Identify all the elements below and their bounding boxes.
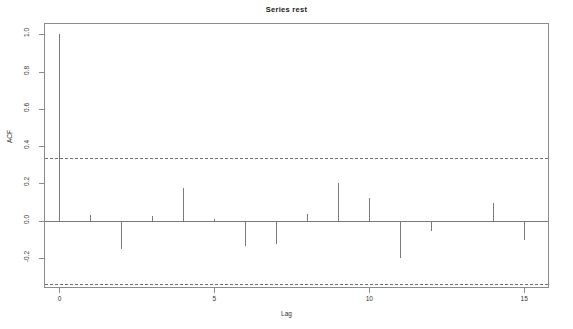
y-tick-mark <box>39 109 44 110</box>
x-tick-label: 5 <box>204 295 224 302</box>
acf-spike <box>524 221 525 241</box>
x-tick-label: 15 <box>514 295 534 302</box>
acf-spike <box>214 219 215 221</box>
x-tick-mark <box>214 288 215 293</box>
plot-frame <box>44 23 549 288</box>
x-tick-label: 10 <box>359 295 379 302</box>
acf-spike <box>152 216 153 221</box>
x-tick-mark <box>369 288 370 293</box>
acf-spike <box>59 34 60 221</box>
acf-spike <box>431 221 432 231</box>
y-tick-label: 0.0 <box>23 209 30 229</box>
acf-plot: Series rest ACF Lag 1.00.80.60.40.20.0-0… <box>0 0 573 329</box>
x-tick-mark <box>59 288 60 293</box>
acf-spike <box>245 221 246 246</box>
y-tick-mark <box>39 146 44 147</box>
acf-spike <box>183 188 184 221</box>
page-title: Series rest <box>0 5 573 14</box>
acf-spike <box>400 221 401 258</box>
acf-spike <box>307 214 308 221</box>
acf-spike <box>90 215 91 221</box>
y-tick-label: 0.2 <box>23 172 30 192</box>
y-tick-mark <box>39 34 44 35</box>
y-tick-mark <box>39 221 44 222</box>
acf-spike <box>276 221 277 244</box>
acf-spike <box>121 221 122 249</box>
y-tick-label: 0.4 <box>23 135 30 155</box>
x-axis-label: Lag <box>0 310 573 317</box>
y-tick-mark <box>39 183 44 184</box>
confidence-band-upper <box>45 158 548 159</box>
y-tick-mark <box>39 72 44 73</box>
y-tick-label: 0.8 <box>23 60 30 80</box>
acf-spike <box>369 198 370 220</box>
acf-spike <box>338 183 339 220</box>
y-tick-label: 1.0 <box>23 23 30 43</box>
y-axis-label: ACF <box>6 130 13 143</box>
x-tick-label: 0 <box>49 295 69 302</box>
x-tick-mark <box>524 288 525 293</box>
y-tick-mark <box>39 258 44 259</box>
y-tick-label: 0.6 <box>23 97 30 117</box>
confidence-band-lower <box>45 284 548 285</box>
y-tick-label: -0.2 <box>23 247 30 267</box>
acf-spike <box>493 203 494 221</box>
